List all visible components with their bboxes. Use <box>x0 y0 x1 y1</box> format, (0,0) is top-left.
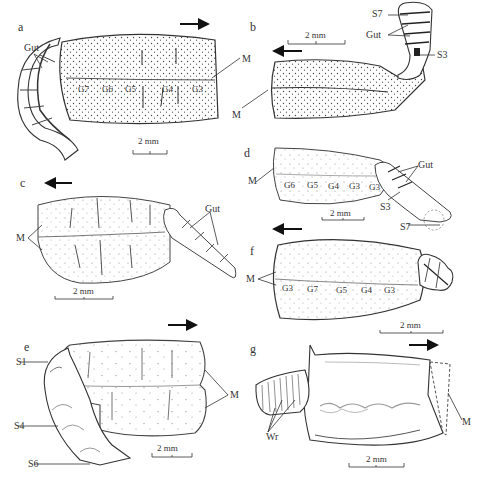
panel-f-g-label: G5 <box>336 285 347 295</box>
panel-d-m-label: M <box>248 176 257 186</box>
panel-a-letter: a <box>18 22 23 32</box>
panel-e-m-label: M <box>230 390 239 400</box>
figure-drawings <box>0 0 479 482</box>
panel-d-g-label: G3 <box>349 181 360 191</box>
panel-d-s-mid-label: S3 <box>380 202 391 212</box>
panel-a-m-label: M <box>242 54 251 64</box>
panel-f-letter: f <box>250 246 254 256</box>
panel-b-m-label: M <box>232 110 241 120</box>
panel-e-s4-label: S4 <box>14 421 25 431</box>
panel-d-letter: d <box>244 148 250 158</box>
panel-b-scale-label: 2 mm <box>305 30 326 40</box>
panel-a-g-label: G5 <box>125 84 136 94</box>
panel-e-s6-label: S6 <box>28 459 39 469</box>
panel-e-s1-label: S1 <box>16 357 27 367</box>
panel-a-g-label: G6 <box>102 84 113 94</box>
panel-c-drawing <box>28 183 236 299</box>
panel-a-gut-label: Gut <box>24 43 39 53</box>
panel-b-letter: b <box>250 22 256 32</box>
panel-a-scale-label: 2 mm <box>138 136 159 146</box>
panel-c-scale-label: 2 mm <box>73 286 94 296</box>
panel-f-g-label: G4 <box>361 285 372 295</box>
panel-f-g-label: G3 <box>384 285 395 295</box>
panel-b-gut-label: Gut <box>366 30 381 40</box>
panel-g-wr-label: Wr <box>266 432 278 442</box>
panel-g-letter: g <box>250 344 256 354</box>
panel-c-letter: c <box>20 178 25 188</box>
panel-b-s-bottom-label: S3 <box>437 50 448 60</box>
panel-g-scale-label: 2 mm <box>366 454 387 464</box>
panel-c-m-label: M <box>16 233 25 243</box>
panel-d-scale-label: 2 mm <box>330 208 351 218</box>
panel-d-gut-label: Gut <box>418 160 433 170</box>
panel-b-drawing <box>242 2 435 118</box>
panel-b-s-top-label: S7 <box>372 9 383 19</box>
panel-e-scale-label: 2 mm <box>157 443 178 453</box>
panel-d-s-bottom-label: S7 <box>400 222 411 232</box>
panel-c-gut-label: Gut <box>205 204 220 214</box>
panel-f-drawing <box>258 229 453 333</box>
panel-f-m-label: M <box>246 274 255 284</box>
panel-a-g-label: G7 <box>78 84 89 94</box>
panel-g-m-label: M <box>462 417 471 427</box>
panel-d-g-label: G5 <box>307 180 318 190</box>
panel-g-drawing <box>256 345 462 467</box>
panel-d-g-label: G6 <box>284 180 295 190</box>
panel-f-scale-label: 2 mm <box>400 320 421 330</box>
panel-f-g-label: G7 <box>307 284 318 294</box>
panel-a-g-label: G4 <box>162 84 173 94</box>
panel-d-g-label: G4 <box>328 181 339 191</box>
panel-f-g-label: G3 <box>282 283 293 293</box>
panel-d-g-label: G3 <box>369 182 380 192</box>
panel-e-letter: e <box>24 342 29 352</box>
panel-e-drawing <box>18 325 228 465</box>
panel-a-g-label: G3 <box>192 84 203 94</box>
